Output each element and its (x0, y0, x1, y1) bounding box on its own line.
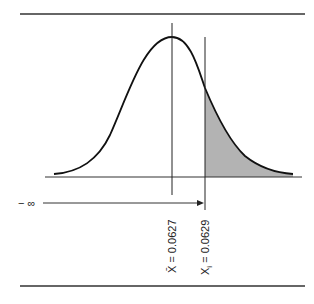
normal-curve (54, 37, 293, 174)
arrow-head-icon (197, 200, 204, 206)
xi-label: Xi = 0.0629 (199, 220, 214, 275)
mean-label: X̄ = 0.0627 (166, 219, 178, 273)
normal-distribution-diagram: − ∞ X̄ = 0.0627 Xi = 0.0629 (0, 0, 314, 304)
shaded-tail-area (205, 88, 293, 177)
neg-infinity-label: − ∞ (18, 197, 35, 209)
